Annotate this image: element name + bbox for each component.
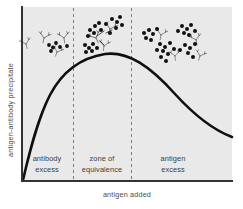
x-axis-label: antigen added bbox=[103, 190, 151, 199]
zone-label-equivalence-line1: zone of bbox=[90, 154, 116, 163]
precipitin-curve-figure: antibody excess zone of equivalence anti… bbox=[0, 0, 243, 209]
chart-canvas: antibody excess zone of equivalence anti… bbox=[0, 0, 243, 209]
y-axis-label: antigen-antibody precipitate bbox=[6, 63, 15, 157]
zone-label-antigen-excess-line2: excess bbox=[161, 165, 185, 174]
zone-label-antibody-excess-line2: excess bbox=[35, 165, 59, 174]
zone-label-antigen-excess-line1: antigen bbox=[161, 154, 186, 163]
zone-label-antibody-excess-line1: antibody bbox=[33, 154, 62, 163]
zone-label-equivalence-line2: equivalence bbox=[82, 165, 123, 174]
